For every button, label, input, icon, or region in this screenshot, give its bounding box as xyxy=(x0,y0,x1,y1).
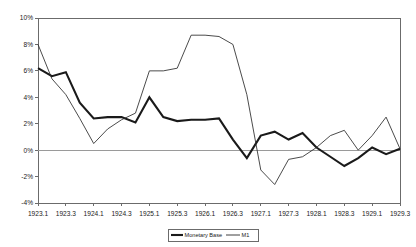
legend-label-m1: M1 xyxy=(242,232,250,238)
x-axis-tick-label: 1928.1 xyxy=(306,210,327,217)
x-axis-tick-label: 1926.3 xyxy=(223,210,244,217)
x-axis-tick-label: 1925.3 xyxy=(167,210,188,217)
chart-legend: Monetary Base M1 xyxy=(168,229,258,241)
y-axis-tick-label: -4% xyxy=(21,199,33,206)
y-axis-tick-label: 8% xyxy=(23,41,33,48)
x-axis-labels: 1923.11923.31924.11924.31925.11925.31926… xyxy=(28,210,411,217)
x-axis-tick-label: 1923.1 xyxy=(28,210,49,217)
x-axis-tick-label: 1927.1 xyxy=(251,210,272,217)
x-axis-tick-label: 1925.1 xyxy=(139,210,160,217)
x-axis-tick-label: 1923.3 xyxy=(56,210,77,217)
plot-background xyxy=(38,18,400,203)
line-chart: -4%-2%0%2%4%6%8%10% 1923.11923.31924.119… xyxy=(0,0,416,247)
x-axis-tick-label: 1924.3 xyxy=(111,210,132,217)
y-axis-tick-label: 6% xyxy=(23,67,33,74)
y-axis-labels: -4%-2%0%2%4%6%8%10% xyxy=(20,14,33,206)
y-axis-tick-label: 10% xyxy=(20,14,33,21)
y-axis-tick-label: 2% xyxy=(23,120,33,127)
x-axis-tick-label: 1929.1 xyxy=(362,210,383,217)
y-axis-tick-label: -2% xyxy=(21,173,33,180)
x-axis-tick-label: 1929.3 xyxy=(390,210,411,217)
x-axis-tick-label: 1924.1 xyxy=(84,210,105,217)
y-axis-tick-label: 0% xyxy=(23,147,33,154)
x-axis-tick-label: 1927.3 xyxy=(279,210,300,217)
chart-container: -4%-2%0%2%4%6%8%10% 1923.11923.31924.119… xyxy=(0,0,416,247)
x-axis-tick-label: 1926.1 xyxy=(195,210,216,217)
x-axis-tick-label: 1928.3 xyxy=(334,210,355,217)
legend-label-monetary-base: Monetary Base xyxy=(185,232,223,238)
y-axis-tick-label: 4% xyxy=(23,94,33,101)
